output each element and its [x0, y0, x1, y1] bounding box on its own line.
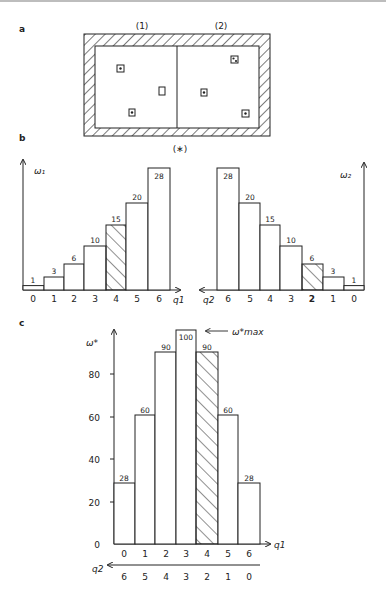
x-tick-label: 5: [247, 294, 253, 304]
x-tick-label: 2: [163, 549, 169, 559]
bar-q2-0: [344, 286, 364, 290]
value-label: 6: [310, 254, 315, 263]
bar-q1-5: [126, 203, 148, 290]
oscillator-cell: [201, 89, 207, 96]
value-label: 15: [265, 215, 275, 224]
x-tick-label: 6: [225, 294, 231, 304]
x-tick-label-secondary: 2: [204, 572, 210, 582]
x-tick-label: 3: [183, 549, 189, 559]
bar-q1-6: [148, 168, 170, 290]
x-tick-label-secondary: 0: [246, 572, 252, 582]
oscillator-cell: [129, 109, 135, 116]
value-label: 1: [31, 276, 36, 285]
value-label: 90: [202, 343, 212, 352]
y-ticks: 0 20 40 60 80: [89, 370, 114, 550]
value-label: 1: [352, 276, 357, 285]
x-tick-label-secondary: 1: [225, 572, 231, 582]
value-label: 20: [245, 193, 255, 202]
value-label: 6: [72, 254, 77, 263]
bar-q2-3: [280, 246, 302, 290]
x-tick-label: 3: [288, 294, 294, 304]
x-axis-label-secondary: q2: [92, 564, 104, 574]
x-tick-label: 6: [246, 549, 252, 559]
x-tick-label-secondary: 3: [183, 572, 189, 582]
value-label: 100: [179, 333, 194, 342]
x-tick-label: 4: [113, 294, 119, 304]
x-tick-label: 3: [92, 294, 98, 304]
bar-q2-5: [239, 203, 260, 290]
value-label: 20: [132, 193, 142, 202]
chart-b-right: ω₂ 28 20 15 10 6 3 1 q2 6 5 4 3 2 1 0: [200, 163, 364, 305]
oscillator-cell-empty: [159, 87, 165, 95]
oscillator-cell-double: [231, 56, 238, 63]
value-label: 60: [140, 406, 150, 415]
bar-q1-4-highlighted: [106, 225, 126, 290]
wall-label: (∗): [173, 144, 188, 154]
value-label: 10: [286, 236, 296, 245]
x-tick-label: 5: [225, 549, 231, 559]
bar-c-1: [135, 415, 155, 544]
value-label: 3: [331, 267, 336, 276]
annotation-omega-max: ω*max: [232, 327, 264, 337]
x-tick-label: 1: [51, 294, 57, 304]
y-tick-label: 0: [94, 540, 100, 550]
x-tick-label: 2: [71, 294, 77, 304]
value-label: 28: [119, 474, 129, 483]
bar-q1-1: [44, 277, 64, 290]
bar-q2-2-highlighted: [302, 264, 323, 290]
x-tick-label-secondary: 6: [121, 572, 127, 582]
bar-q1-0: [23, 286, 44, 290]
x-tick-label: 0: [30, 294, 36, 304]
panel-a: a (1) (2) (∗): [19, 21, 270, 154]
x-axis-label: q1: [173, 295, 184, 305]
value-label: 90: [161, 343, 171, 352]
value-label: 28: [223, 172, 233, 181]
y-tick-label: 60: [89, 413, 101, 423]
y-axis-label: ω₂: [340, 170, 352, 180]
y-tick-label: 40: [89, 455, 101, 465]
y-axis-label: ω*: [86, 338, 99, 348]
x-axis-label: q2: [203, 295, 215, 305]
chart-b-left: ω₁ 1 3 6 10 15 20 28 0 1 2 3 4 5 6 q1: [23, 160, 184, 305]
bar-c-5: [218, 415, 238, 544]
bar-q2-6: [217, 168, 239, 290]
bar-q2-4: [260, 225, 280, 290]
bar-c-0: [114, 483, 135, 544]
x-tick-label: 5: [134, 294, 140, 304]
panel-label-c: c: [19, 318, 24, 328]
x-tick-label: 2: [309, 294, 315, 304]
value-label: 15: [111, 215, 121, 224]
value-label: 3: [52, 267, 57, 276]
value-label: 60: [223, 406, 233, 415]
oscillator-cell: [242, 110, 249, 117]
x-tick-label: 1: [142, 549, 148, 559]
y-axis-label: ω₁: [34, 166, 46, 176]
x-tick-label: 0: [351, 294, 357, 304]
x-tick-label: 6: [156, 294, 162, 304]
compartment-2-label: (2): [215, 21, 228, 31]
y-tick-label: 80: [89, 370, 101, 380]
chart-c: ω* 0 20 40 60 80 28 60 90 100 90 60 28 ω: [86, 327, 285, 582]
compartment-1-label: (1): [136, 21, 149, 31]
bar-c-4-highlighted: [196, 352, 218, 544]
x-tick-label: 4: [204, 549, 210, 559]
value-label: 10: [90, 236, 100, 245]
figure: a (1) (2) (∗) b ω₁ 1 3 6 10 15: [0, 0, 386, 598]
bar-q1-2: [64, 264, 84, 290]
x-tick-label: 0: [121, 549, 127, 559]
x-tick-label-secondary: 4: [163, 572, 169, 582]
panel-label-b: b: [19, 133, 26, 143]
bar-c-3-max: [176, 330, 196, 544]
value-label: 28: [244, 474, 254, 483]
x-tick-label: 1: [330, 294, 336, 304]
bar-c-2: [155, 352, 176, 544]
bar-c-6: [238, 483, 260, 544]
bar-q1-3: [84, 246, 106, 290]
x-axis-label: q1: [274, 540, 285, 550]
x-tick-label: 4: [267, 294, 273, 304]
panel-label-a: a: [19, 24, 25, 34]
bar-q2-1: [323, 277, 344, 290]
x-tick-label-secondary: 5: [142, 572, 148, 582]
value-label: 28: [154, 172, 164, 181]
oscillator-cell: [117, 65, 124, 72]
